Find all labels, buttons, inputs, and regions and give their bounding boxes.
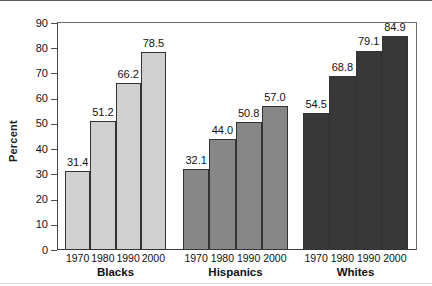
x-axis-group-label: Blacks xyxy=(56,267,176,279)
grouped-bar-chart: Percent 0102030405060708090 31.451.266.2… xyxy=(0,0,432,286)
bar[interactable] xyxy=(183,169,209,250)
y-axis-tick-label: 30 xyxy=(18,169,48,180)
x-axis-group-label: Whites xyxy=(296,267,416,279)
bar[interactable] xyxy=(303,113,329,250)
x-axis-year-label: 2000 xyxy=(134,253,173,264)
x-axis-year-label: 2000 xyxy=(375,253,415,264)
y-axis-tick-label: 70 xyxy=(18,68,48,79)
bar[interactable] xyxy=(356,51,382,251)
bar[interactable] xyxy=(262,106,288,250)
bar-value-label: 84.9 xyxy=(370,22,420,33)
bar[interactable] xyxy=(116,83,141,250)
y-axis-tick-label: 10 xyxy=(18,219,48,230)
y-axis-tick-label: 90 xyxy=(18,18,48,29)
bar[interactable] xyxy=(209,139,235,250)
bar-value-label: 78.5 xyxy=(129,38,178,49)
y-axis-tick-label: 60 xyxy=(18,93,48,104)
y-axis-tick-label: 40 xyxy=(18,144,48,155)
bar[interactable] xyxy=(382,36,408,250)
bar[interactable] xyxy=(90,121,115,250)
x-axis-year-label: 2000 xyxy=(255,253,295,264)
bar[interactable] xyxy=(65,171,90,250)
y-axis-tick-label: 0 xyxy=(18,245,48,256)
bar[interactable] xyxy=(141,52,166,250)
y-axis-tick-mark xyxy=(51,250,57,251)
y-axis-tick-label: 80 xyxy=(18,43,48,54)
x-axis-group-label: Hispanics xyxy=(176,267,296,279)
bar[interactable] xyxy=(329,76,355,250)
y-axis-tick-label: 50 xyxy=(18,118,48,129)
bar[interactable] xyxy=(236,122,262,250)
bars-layer: 31.451.266.278.532.144.050.857.054.568.8… xyxy=(58,23,416,250)
y-axis-tick-label: 20 xyxy=(18,194,48,205)
